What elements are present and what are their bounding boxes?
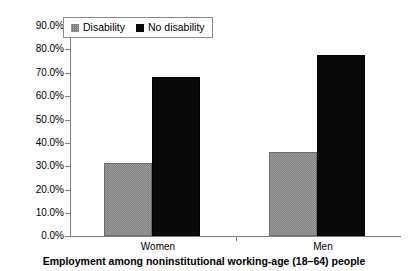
legend-swatch-icon-no-disability — [136, 24, 144, 32]
y-tick-label: 10.0% — [6, 208, 64, 218]
bar-women-disability — [104, 163, 152, 237]
y-tick-mark — [65, 49, 70, 50]
y-axis-tick-labels: 90.0% 80.0% 70.0% 60.0% 50.0% 40.0% 30.0… — [0, 0, 64, 271]
chart-legend: Disability No disability — [63, 17, 213, 38]
legend-swatch-icon-disability — [71, 24, 79, 32]
plot-area — [71, 26, 401, 236]
y-tick-mark — [65, 143, 70, 144]
bar-women-no-disability — [152, 77, 200, 236]
y-tick-mark — [65, 190, 70, 191]
legend-label-disability: Disability — [83, 22, 125, 33]
y-tick-label: 50.0% — [6, 115, 64, 125]
legend-label-no-disability: No disability — [148, 22, 205, 33]
y-tick-mark — [65, 213, 70, 214]
y-tick-mark — [65, 236, 70, 237]
y-tick-label: 60.0% — [6, 91, 64, 101]
legend-entry-no-disability: No disability — [136, 22, 205, 33]
x-tick-mark — [236, 236, 237, 241]
y-tick-mark — [65, 96, 70, 97]
y-tick-label: 70.0% — [6, 68, 64, 78]
x-axis-label-men: Men — [270, 241, 376, 253]
legend-entry-disability: Disability — [71, 22, 125, 33]
bar-men-no-disability — [317, 55, 365, 236]
y-tick-label: 30.0% — [6, 161, 64, 171]
y-tick-label: 40.0% — [6, 138, 64, 148]
bar-chart-figure: 90.0% 80.0% 70.0% 60.0% 50.0% 40.0% 30.0… — [0, 0, 408, 271]
y-tick-mark — [65, 166, 70, 167]
y-tick-label: 90.0% — [6, 21, 64, 31]
chart-caption: Employment among noninstitutional workin… — [0, 255, 408, 268]
x-axis-label-women: Women — [105, 241, 211, 253]
y-tick-label: 20.0% — [6, 185, 64, 195]
y-tick-mark — [65, 73, 70, 74]
y-tick-mark — [65, 120, 70, 121]
bar-men-disability — [269, 152, 317, 236]
y-tick-label: 80.0% — [6, 44, 64, 54]
y-tick-label: 0.0% — [6, 231, 64, 241]
